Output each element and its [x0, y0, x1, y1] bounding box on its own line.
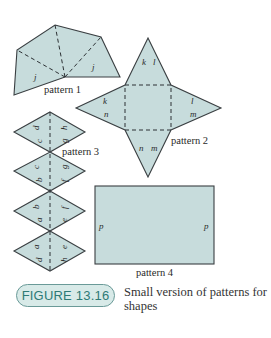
pattern-4: p p pattern 4 — [95, 186, 214, 278]
svg-text:p: p — [98, 221, 104, 231]
svg-text:p: p — [203, 221, 209, 231]
figure-number: FIGURE 13.16 — [22, 288, 110, 303]
pattern-4-label: pattern 4 — [136, 267, 174, 278]
svg-text:b: b — [31, 204, 41, 209]
svg-text:g: g — [59, 138, 69, 143]
label-j-1: j — [33, 72, 37, 82]
svg-text:c: c — [31, 165, 41, 169]
pattern-2-label: pattern 2 — [171, 135, 208, 146]
figure-caption: Small version of patterns for shapes — [124, 285, 269, 313]
svg-text:d: d — [31, 125, 41, 130]
svg-text:m: m — [151, 143, 158, 153]
pattern-1: j j pattern 1 — [14, 25, 120, 95]
svg-text:g: g — [59, 164, 69, 169]
svg-text:a: a — [31, 244, 41, 249]
pattern-3-label: pattern 3 — [62, 146, 99, 157]
pattern-3: d c h g c b g f b a f e a d e h pattern … — [14, 112, 99, 271]
svg-text:b: b — [34, 177, 44, 182]
figure-badge: FIGURE 13.16 — [16, 284, 115, 307]
svg-text:m: m — [190, 109, 197, 119]
svg-text:c: c — [34, 139, 44, 143]
svg-text:e: e — [59, 245, 69, 249]
pattern-1-label: pattern 1 — [44, 84, 81, 95]
label-j-2: j — [91, 62, 95, 72]
svg-text:a: a — [34, 217, 44, 222]
svg-text:d: d — [34, 257, 44, 262]
svg-text:h: h — [59, 125, 69, 130]
svg-text:n: n — [139, 143, 144, 153]
svg-text:h: h — [59, 257, 69, 262]
svg-text:e: e — [59, 218, 69, 222]
svg-text:n: n — [104, 109, 109, 119]
